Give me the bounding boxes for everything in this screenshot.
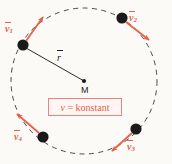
vector-overbar-v2 [129,11,135,12]
velocity-label-v2: v2 [129,13,137,24]
center-point-dot [82,79,86,83]
velocity-label-v4: v4 [14,132,22,143]
vector-overbar-v1 [5,22,11,23]
constant-speed-value: konstant [76,102,110,113]
velocity-label-v2-subscript: 2 [133,16,137,24]
center-point-label: M [81,86,89,95]
velocity-arrow-v2 [126,22,149,40]
velocity-label-v4-subscript: 4 [18,135,22,143]
velocity-arrow-v4 [17,114,39,133]
radius-vector-label-symbol: r [57,52,61,63]
particle-dot-v2 [116,12,127,23]
constant-speed-equals: = [65,102,76,113]
circular-motion-figure: v1 v2 v3 v4 r M v = konstant [0,0,172,164]
vector-overbar-r [57,50,63,51]
particle-dot-v4 [37,131,48,142]
velocity-label-v3: v3 [127,142,135,153]
vector-overbar-v3 [127,140,133,141]
velocity-label-v1-subscript: 1 [9,27,13,35]
velocity-label-v3-subscript: 3 [131,145,135,153]
velocity-arrow-v1 [26,17,43,41]
vector-overbar-v4 [14,130,20,131]
radius-vector-label: r [57,53,61,63]
radius-line [26,48,84,81]
figure-canvas [0,0,172,164]
constant-speed-text: v = konstant [61,102,110,113]
velocity-label-v1: v1 [5,24,13,35]
constant-speed-box: v = konstant [48,98,122,116]
particle-dot-v3 [130,123,141,134]
